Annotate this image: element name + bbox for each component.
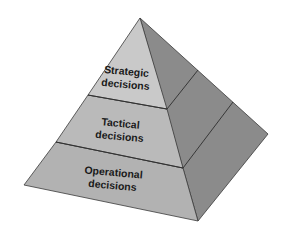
label-operational: Operational decisions: [83, 164, 143, 194]
label-strategic: Strategic decisions: [101, 63, 152, 92]
label-tactical: Tactical decisions: [95, 115, 146, 144]
decision-pyramid: Strategic decisions Tactical decisions O…: [0, 0, 283, 238]
